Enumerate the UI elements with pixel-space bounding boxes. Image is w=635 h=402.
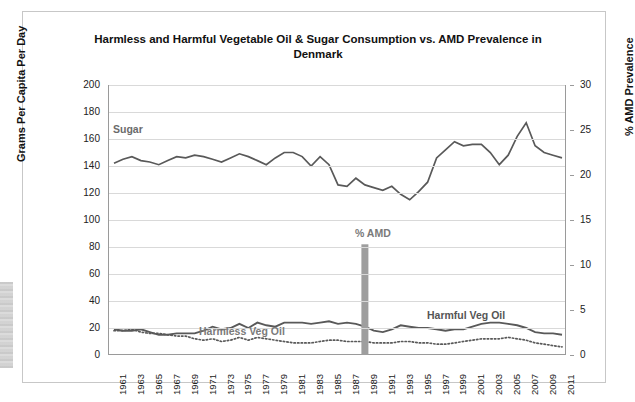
gridline (109, 193, 565, 194)
tick-mark (570, 310, 574, 311)
x-axis-tick: 2003 (493, 374, 504, 395)
gridline (109, 112, 565, 113)
y-axis-right-tick: 10 (580, 260, 591, 270)
tick-mark (570, 265, 574, 266)
tick-mark (570, 175, 574, 176)
x-axis-tick: 2007 (529, 374, 540, 395)
x-axis-tick: 1997 (440, 374, 451, 395)
y-axis-left-tick: 180 (83, 107, 100, 117)
series-label-harmful-veg-oil: Harmful Veg Oil (427, 309, 505, 321)
x-axis-tick: 1993 (404, 374, 415, 395)
y-axis-right-tick: 0 (580, 350, 586, 360)
y-axis-left-tick: 20 (89, 323, 100, 333)
amd-prevalence-bar (361, 244, 368, 355)
series-label-harmless-veg-oil: Harmless Veg Oil (199, 325, 285, 337)
x-axis-tick: 1983 (314, 374, 325, 395)
gridline (109, 166, 565, 167)
gridline (109, 301, 565, 302)
tick-mark (570, 130, 574, 131)
gridline (109, 274, 565, 275)
x-axis-tick: 1973 (225, 374, 236, 395)
tick-mark (570, 220, 574, 221)
gridline (109, 220, 565, 221)
x-axis-tick: 1967 (171, 374, 182, 395)
x-axis-tick: 2009 (547, 374, 558, 395)
x-axis: 1961196319651967196919711973197519771979… (108, 357, 566, 397)
gridline (109, 328, 565, 329)
y-axis-left-tick: 40 (89, 296, 100, 306)
gridline (109, 247, 565, 248)
y-axis-left-tick: 160 (83, 134, 100, 144)
x-axis-tick: 1965 (153, 374, 164, 395)
x-axis-tick: 1991 (386, 374, 397, 395)
x-axis-tick: 1969 (189, 374, 200, 395)
y-axis-left-tick: 100 (83, 215, 100, 225)
y-axis-right-tick: 25 (580, 125, 591, 135)
x-axis-tick: 1961 (117, 374, 128, 395)
y-axis-right-label: % AMD Prevalence (623, 37, 635, 136)
chart-panel: Harmless and Harmful Vegetable Oil & Sug… (22, 11, 606, 383)
y-axis-right-tick: 20 (580, 170, 591, 180)
x-axis-tick: 2005 (511, 374, 522, 395)
x-axis-tick: 1995 (422, 374, 433, 395)
tick-mark (570, 85, 574, 86)
y-axis-right: 051015202530 (570, 85, 610, 355)
y-axis-left-tick: 140 (83, 161, 100, 171)
x-axis-tick: 2001 (475, 374, 486, 395)
y-axis-left-tick: 60 (89, 269, 100, 279)
y-axis-left-tick: 200 (83, 80, 100, 90)
page-edge-artifact (0, 282, 13, 368)
y-axis-left: 020406080100120140160180200 (58, 85, 104, 355)
gridline (109, 139, 565, 140)
x-axis-tick: 2011 (565, 375, 576, 395)
gridline (109, 85, 565, 86)
x-axis-tick: 1981 (296, 374, 307, 395)
y-axis-left-tick: 80 (89, 242, 100, 252)
x-axis-tick: 1975 (242, 374, 253, 395)
x-axis-tick: 1989 (368, 374, 379, 395)
x-axis-tick: 1987 (350, 374, 361, 395)
chart-title: Harmless and Harmful Vegetable Oil & Sug… (83, 32, 553, 62)
x-axis-tick: 1979 (278, 374, 289, 395)
tick-mark (570, 355, 574, 356)
series-label-amd: % AMD (355, 227, 391, 239)
y-axis-right-tick: 5 (580, 305, 586, 315)
y-axis-left-tick: 0 (94, 350, 100, 360)
y-axis-right-tick: 30 (580, 80, 591, 90)
y-axis-right-tick: 15 (580, 215, 591, 225)
x-axis-tick: 1963 (135, 374, 146, 395)
series-path-harmless-veg-oil (114, 329, 562, 347)
x-axis-tick: 1977 (260, 374, 271, 395)
series-path-sugar (114, 123, 562, 200)
series-label-sugar: Sugar (113, 123, 143, 135)
y-axis-left-label: Grams Per Capita Per Day (15, 26, 27, 162)
y-axis-left-tick: 120 (83, 188, 100, 198)
x-axis-tick: 1985 (332, 374, 343, 395)
x-axis-tick: 1999 (457, 374, 468, 395)
x-axis-tick: 1971 (207, 374, 218, 395)
